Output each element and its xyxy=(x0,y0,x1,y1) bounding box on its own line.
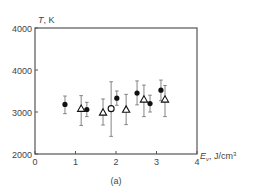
data-point-circle-filled xyxy=(114,91,119,105)
open-triangle-marker xyxy=(161,96,168,102)
chart-figure: 2000300040004000 01234 T, K Ev, J/cm3 (a… xyxy=(0,0,253,194)
open-triangle-marker xyxy=(123,106,130,112)
y-tick-label: 4000 xyxy=(12,24,32,34)
y-tick-label: 4000 xyxy=(12,66,32,76)
data-point-circle-open xyxy=(108,82,114,137)
data-point-circle-filled xyxy=(62,96,67,114)
filled-circle-marker xyxy=(134,91,139,96)
x-tick-label: 0 xyxy=(32,157,37,167)
filled-circle-marker xyxy=(62,102,67,107)
open-circle-marker xyxy=(108,106,114,112)
y-tick-label: 3000 xyxy=(12,108,32,118)
x-axis-label: Ev, J/cm3 xyxy=(200,151,237,162)
x-tick-label: 1 xyxy=(73,157,78,167)
figure-caption: (a) xyxy=(111,176,122,186)
open-triangle-marker xyxy=(78,105,85,111)
y-axis: 2000300040004000 xyxy=(12,24,38,160)
data-point-circle-filled xyxy=(158,80,163,101)
x-axis: 01234 xyxy=(32,151,199,167)
data-points xyxy=(62,80,168,136)
y-axis-label: T, K xyxy=(38,15,55,25)
y-tick-label: 2000 xyxy=(12,150,32,160)
filled-circle-marker xyxy=(114,96,119,101)
x-tick-label: 2 xyxy=(113,157,118,167)
x-tick-label: 4 xyxy=(194,157,199,167)
data-point-triangle-open xyxy=(78,96,85,126)
x-axis-label-sup: 3 xyxy=(233,151,237,157)
filled-circle-marker xyxy=(158,88,163,93)
data-point-circle-filled xyxy=(84,102,89,116)
filled-circle-marker xyxy=(147,101,152,106)
data-point-triangle-open xyxy=(140,85,147,117)
data-point-triangle-open xyxy=(123,94,130,124)
data-point-triangle-open xyxy=(99,99,106,125)
x-axis-label-unit: , J/cm xyxy=(209,151,233,161)
data-point-circle-filled xyxy=(134,81,139,105)
x-tick-label: 3 xyxy=(154,157,159,167)
open-triangle-marker xyxy=(99,109,106,115)
y-axis-label-unit: , K xyxy=(44,15,55,25)
open-triangle-marker xyxy=(140,96,147,102)
data-point-circle-filled xyxy=(147,95,152,112)
